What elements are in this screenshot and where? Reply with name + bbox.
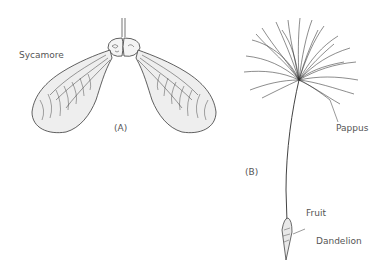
- dandelion-label: Dandelion: [316, 237, 362, 246]
- achene: [282, 218, 292, 260]
- panel-b-label: (B): [245, 168, 258, 177]
- sycamore-samara-drawing: [32, 18, 216, 133]
- pappus-bristles: [244, 18, 358, 104]
- pappus-label: Pappus: [336, 124, 368, 133]
- illustration-canvas: [0, 0, 382, 264]
- beak-stalk: [286, 80, 299, 222]
- pappus-leader-line: [330, 100, 338, 122]
- panel-a-label: (A): [114, 124, 127, 133]
- sycamore-label: Sycamore: [19, 51, 64, 60]
- fruit-leader-line: [293, 229, 305, 234]
- dandelion-seed-drawing: [244, 18, 358, 260]
- seed-dispersal-figure: Sycamore (A) Pappus (B) Fruit Dandelion: [0, 0, 382, 264]
- fruit-label: Fruit: [306, 209, 326, 218]
